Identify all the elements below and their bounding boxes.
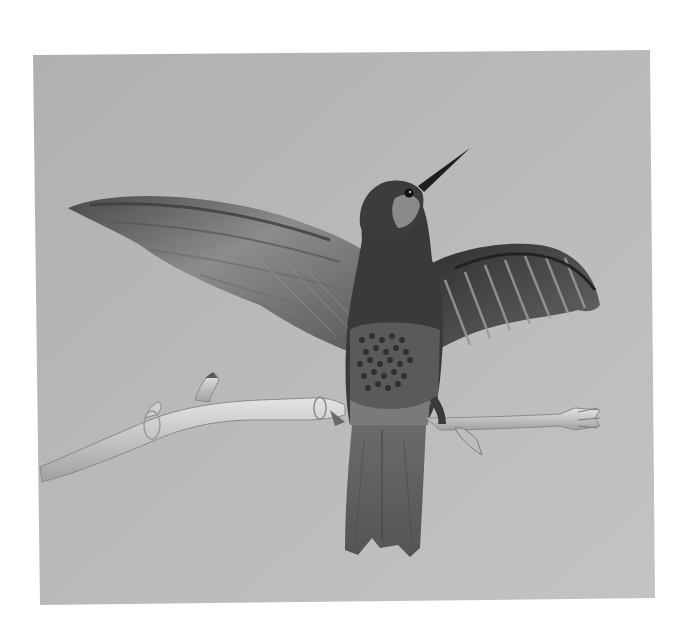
photograph: Hummingbird with spread wings perched on… bbox=[0, 0, 689, 643]
hummingbird-photo bbox=[0, 0, 689, 643]
tail bbox=[345, 425, 426, 557]
